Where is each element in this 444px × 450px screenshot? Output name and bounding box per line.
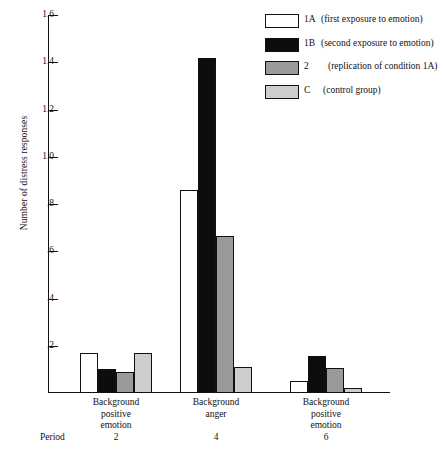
legend-swatch: [265, 14, 299, 28]
legend-description: (control group): [323, 85, 381, 95]
bar: [216, 236, 234, 393]
bar: [290, 381, 308, 393]
legend-description: (second exposure to emotion): [321, 38, 434, 48]
bar: [198, 58, 216, 393]
bar: [180, 190, 198, 393]
legend-key: C: [304, 85, 310, 95]
bar-chart: Number of distress responses 1.61.41.21.…: [0, 0, 444, 450]
legend-swatch: [265, 61, 299, 75]
x-category-label: Backgroundpositiveemotion: [251, 397, 401, 432]
x-category-label-line: emotion: [41, 420, 191, 432]
bar: [80, 353, 98, 393]
bar: [308, 356, 326, 393]
bar: [116, 372, 134, 393]
bar: [234, 367, 252, 393]
legend-description: (first exposure to emotion): [321, 14, 423, 24]
bar: [98, 369, 116, 393]
legend-swatch: [265, 38, 299, 52]
bar: [326, 368, 344, 393]
legend-item: C(control group): [265, 83, 444, 107]
legend-key: 1B: [304, 38, 315, 48]
x-category-label-line: Background: [251, 397, 401, 409]
x-category-label-line: positive: [251, 409, 401, 421]
bar: [344, 388, 362, 393]
legend-description: (replication of condition 1A): [328, 61, 437, 71]
legend-key: 2: [304, 61, 309, 71]
legend-item: 2(replication of condition 1A): [265, 59, 444, 83]
x-category-label-line: emotion: [251, 420, 401, 432]
legend-key: 1A: [304, 14, 316, 24]
period-number: 6: [251, 432, 401, 442]
legend-swatch: [265, 85, 299, 99]
legend-item: 1A(first exposure to emotion): [265, 12, 444, 36]
legend: 1A(first exposure to emotion)1B(second e…: [265, 12, 444, 106]
bar: [134, 353, 152, 393]
legend-item: 1B(second exposure to emotion): [265, 36, 444, 60]
